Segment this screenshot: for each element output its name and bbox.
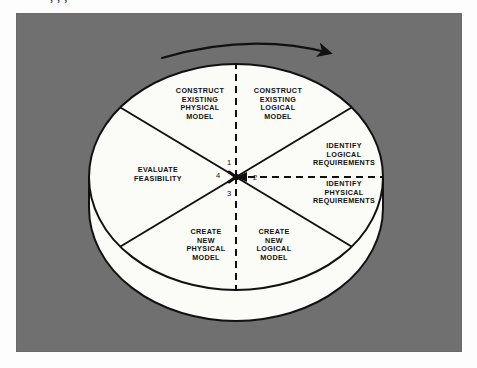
diagram-canvas xyxy=(0,0,477,368)
screenshot-root: , , , xyxy=(0,0,477,368)
clockwise-arrow-icon xyxy=(162,44,330,58)
